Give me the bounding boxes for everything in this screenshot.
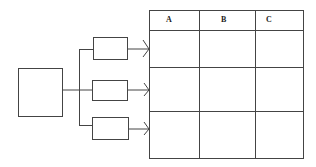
branch-block-1: [94, 38, 128, 60]
branch-block-3: [93, 118, 129, 140]
table-header-a: A: [166, 12, 172, 28]
source-block: [19, 69, 63, 117]
branch-block-2: [93, 81, 128, 101]
table-header-b: B: [221, 12, 226, 28]
table-frame: [150, 11, 304, 159]
table-header-c: C: [266, 12, 272, 28]
